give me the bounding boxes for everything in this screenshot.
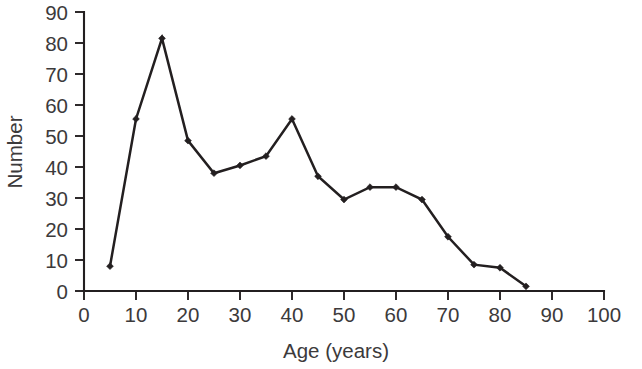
y-tick-label: 10 <box>45 249 68 272</box>
y-tick-label: 70 <box>45 63 68 86</box>
x-tick-label: 80 <box>489 303 512 326</box>
chart-figure: 0102030405060708090 01020304050607080901… <box>0 0 642 369</box>
y-tick-label: 90 <box>45 1 68 24</box>
y-tick-label: 60 <box>45 94 68 117</box>
x-tick-label: 50 <box>333 303 356 326</box>
x-tick-label: 40 <box>281 303 304 326</box>
data-point-marker <box>237 162 244 169</box>
x-tick-label: 60 <box>385 303 408 326</box>
data-point-marker <box>107 263 114 270</box>
x-tick-label: 0 <box>78 303 89 326</box>
x-tick-label: 70 <box>437 303 460 326</box>
data-point-marker <box>133 116 140 123</box>
x-axis-tick-labels: 0102030405060708090100 <box>78 303 621 326</box>
x-tick-label: 10 <box>125 303 148 326</box>
y-axis-tick-labels: 0102030405060708090 <box>45 1 68 303</box>
x-axis-ticks <box>84 291 604 300</box>
y-tick-label: 50 <box>45 125 68 148</box>
y-tick-label: 80 <box>45 32 68 55</box>
y-tick-label: 30 <box>45 187 68 210</box>
y-tick-label: 40 <box>45 156 68 179</box>
x-tick-label: 30 <box>229 303 252 326</box>
line-chart: 0102030405060708090 01020304050607080901… <box>0 0 642 369</box>
data-series-line <box>110 38 526 286</box>
y-axis-title: Number <box>3 115 26 188</box>
data-point-marker <box>159 35 166 42</box>
x-axis-title: Age (years) <box>283 339 389 362</box>
y-tick-label: 0 <box>57 280 68 303</box>
x-tick-label: 20 <box>177 303 200 326</box>
x-tick-label: 90 <box>541 303 564 326</box>
x-tick-label: 100 <box>587 303 621 326</box>
y-axis-ticks <box>75 12 84 291</box>
y-tick-label: 20 <box>45 218 68 241</box>
